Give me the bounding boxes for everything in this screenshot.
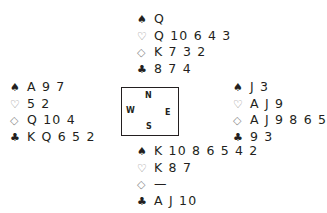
diamond-icon: ◇: [137, 177, 154, 194]
compass-south: S: [146, 122, 152, 131]
south-diamonds: ◇—: [137, 176, 259, 193]
compass-north: N: [145, 91, 152, 100]
compass-box: N W E S: [121, 87, 179, 136]
west-hand: ♠A 9 7 ♡5 2 ◇Q 10 4 ♣K Q 6 5 2: [10, 79, 96, 145]
club-icon: ♣: [137, 194, 154, 211]
heart-icon: ♡: [233, 97, 250, 114]
north-hand: ♠Q ♡Q 10 6 4 3 ◇K 7 3 2 ♣8 7 4: [137, 11, 232, 77]
west-diamonds: ◇Q 10 4: [10, 112, 96, 129]
north-hearts: ♡Q 10 6 4 3: [137, 28, 232, 45]
west-hearts: ♡5 2: [10, 96, 96, 113]
heart-icon: ♡: [137, 161, 154, 178]
south-spades: ♠K 10 8 6 5 4 2: [137, 143, 259, 160]
diamond-icon: ◇: [233, 113, 250, 130]
north-spades: ♠Q: [137, 11, 232, 28]
diamond-icon: ◇: [137, 45, 154, 62]
club-icon: ♣: [10, 130, 27, 147]
north-clubs: ♣8 7 4: [137, 61, 232, 78]
south-clubs: ♣A J 10: [137, 193, 259, 210]
south-hand: ♠K 10 8 6 5 4 2 ♡K 8 7 ◇— ♣A J 10: [137, 143, 259, 209]
diamond-icon: ◇: [10, 113, 27, 130]
south-hearts: ♡K 8 7: [137, 160, 259, 177]
east-spades: ♠J 3: [233, 79, 327, 96]
spade-icon: ♠: [137, 12, 154, 29]
spade-icon: ♠: [233, 80, 250, 97]
compass-west: W: [126, 106, 135, 115]
spade-icon: ♠: [137, 144, 154, 161]
west-clubs: ♣K Q 6 5 2: [10, 129, 96, 146]
heart-icon: ♡: [137, 29, 154, 46]
east-hearts: ♡A J 9: [233, 96, 327, 113]
club-icon: ♣: [137, 62, 154, 79]
north-diamonds: ◇K 7 3 2: [137, 44, 232, 61]
west-spades: ♠A 9 7: [10, 79, 96, 96]
spade-icon: ♠: [10, 80, 27, 97]
east-hand: ♠J 3 ♡A J 9 ◇A J 9 8 6 5 ♣9 3: [233, 79, 327, 145]
compass-east: E: [165, 108, 170, 117]
heart-icon: ♡: [10, 97, 27, 114]
east-diamonds: ◇A J 9 8 6 5: [233, 112, 327, 129]
